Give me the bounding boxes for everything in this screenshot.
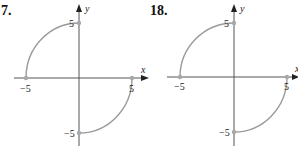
endpoint-dot [232,21,236,25]
endpoint-dot [130,76,134,80]
x-tick-neg5: −5 [20,83,31,94]
graph-2: y x 5 −5 −5 5 [149,0,298,146]
x-tick-neg5: −5 [174,81,185,92]
graph-1: y x 5 −5 −5 5 [0,0,149,146]
endpoint-dot [178,75,182,79]
figure-panel-1: 7. y x 5 −5 −5 5 [0,0,149,146]
x-axis-arrow-icon [292,74,298,80]
y-axis-label: y [239,3,245,14]
y-tick-5: 5 [224,18,229,29]
endpoint-dot [232,130,236,134]
arc-lower-right [234,77,287,132]
arc-upper-left [180,23,234,77]
endpoint-dot [77,131,81,135]
endpoint-dot [77,21,81,25]
y-axis-arrow-icon [231,4,237,12]
arc-upper-left [26,23,79,78]
y-tick-neg5: −5 [64,128,75,139]
figure-panel-2: 18. y x 5 −5 −5 5 [149,0,298,146]
y-tick-5: 5 [69,18,74,29]
y-axis-label: y [84,3,90,14]
y-tick-neg5: −5 [219,127,230,138]
endpoint-dot [24,76,28,80]
x-axis-arrow-icon [141,75,149,81]
x-axis-label: x [140,64,146,75]
x-tick-5: 5 [129,83,134,94]
x-axis-label: x [294,63,298,74]
y-axis-arrow-icon [76,4,82,12]
arc-lower-right [79,78,132,133]
endpoint-dot [285,75,289,79]
x-tick-5: 5 [284,81,289,92]
